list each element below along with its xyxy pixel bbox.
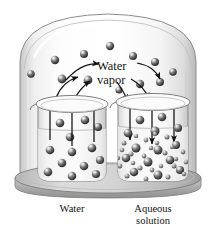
solvent-particle [144,158,153,167]
solvent-particle [154,171,163,180]
solute-particle [155,141,160,146]
solution-beaker [110,94,192,187]
solute-particle [144,138,149,143]
solute-particle [120,148,125,153]
solute-particle [142,154,147,159]
solvent-particle [68,148,77,157]
vapor-pressure-figure: Water vapor Water Aqueous solution [0,0,217,228]
solution-beaker-rim [116,94,190,111]
water-vapor-label-line2: vapor [97,73,126,87]
solute-particle [159,164,164,169]
solvent-particle [136,116,145,125]
solvent-particle [96,156,104,164]
solvent-particle [81,116,90,125]
solute-particle [118,164,123,169]
caption-aqueous-line2: solution [136,215,171,226]
solute-particle [174,157,179,162]
solute-particle [134,134,139,139]
vapor-particle [156,78,164,86]
solute-particle [122,141,127,146]
vapor-particle [136,80,144,88]
solvent-particle [66,133,75,142]
caption-aqueous-line1: Aqueous [134,203,171,214]
caption-water: Water [60,203,85,214]
vapor-particle [151,58,159,66]
solute-particle [129,152,134,157]
solute-particle [182,172,187,177]
vapor-particle [129,52,137,60]
water-beaker [30,96,110,187]
solvent-particle [68,172,77,181]
solvent-particle [80,162,89,171]
solute-particle [131,161,136,166]
figure-canvas: Water vapor Water Aqueous solution [0,0,217,228]
solute-particle [125,174,130,179]
water-beaker-rim [36,96,108,113]
solvent-particle [154,146,163,155]
solvent-particle [58,159,67,168]
solute-particle [172,164,177,169]
solvent-particle [88,144,97,153]
solvent-particle [158,113,167,122]
solute-particle [153,132,157,136]
solvent-particle [94,123,102,131]
solute-particle [166,175,171,180]
solvent-particle [166,156,175,165]
vapor-particle [169,68,177,76]
solute-particle [144,177,149,182]
vapor-particle [51,56,59,64]
solute-particle [165,135,170,140]
water-vapor-label-line1: Water [97,59,127,73]
solvent-particle [92,170,100,178]
solute-particle [150,168,155,173]
solvent-particle [132,144,141,153]
solute-particle [181,150,186,155]
solute-particle [163,151,168,156]
solute-particle [170,145,174,149]
solvent-particle [56,119,65,128]
solute-particle [184,160,189,165]
solute-particle [138,166,143,171]
vapor-particle [58,75,67,84]
vapor-particle [106,42,114,50]
solute-particle [149,146,154,151]
solvent-particle [174,124,182,132]
solvent-particle [130,168,139,177]
solvent-particle [44,168,53,177]
solvent-particle [124,129,133,138]
vapor-particle [27,70,35,78]
solvent-particle [46,146,55,155]
vapor-particle [80,50,88,58]
